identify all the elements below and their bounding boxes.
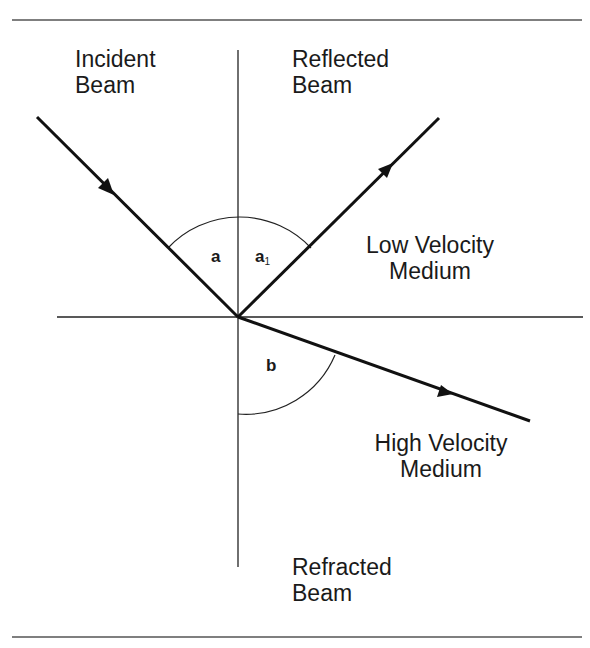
angle-refraction-label: b	[266, 356, 276, 376]
incident-ray	[37, 117, 238, 317]
low-velocity-medium-label: Low Velocity Medium	[361, 232, 499, 284]
refracted-beam-label: Refracted Beam	[292, 554, 392, 606]
angle-arc-b	[238, 355, 335, 414]
angle-reflection-label: a1	[255, 247, 270, 267]
angle-incidence-label: a	[211, 247, 220, 267]
incident-beam-label: Incident Beam	[75, 46, 156, 98]
refracted-arrow-icon	[437, 385, 453, 397]
angle-arc-a	[168, 217, 311, 248]
reflected-beam-label: Reflected Beam	[292, 46, 389, 98]
high-velocity-medium-label: High Velocity Medium	[358, 430, 524, 482]
reflected-ray	[238, 118, 439, 317]
refracted-ray	[238, 317, 530, 421]
